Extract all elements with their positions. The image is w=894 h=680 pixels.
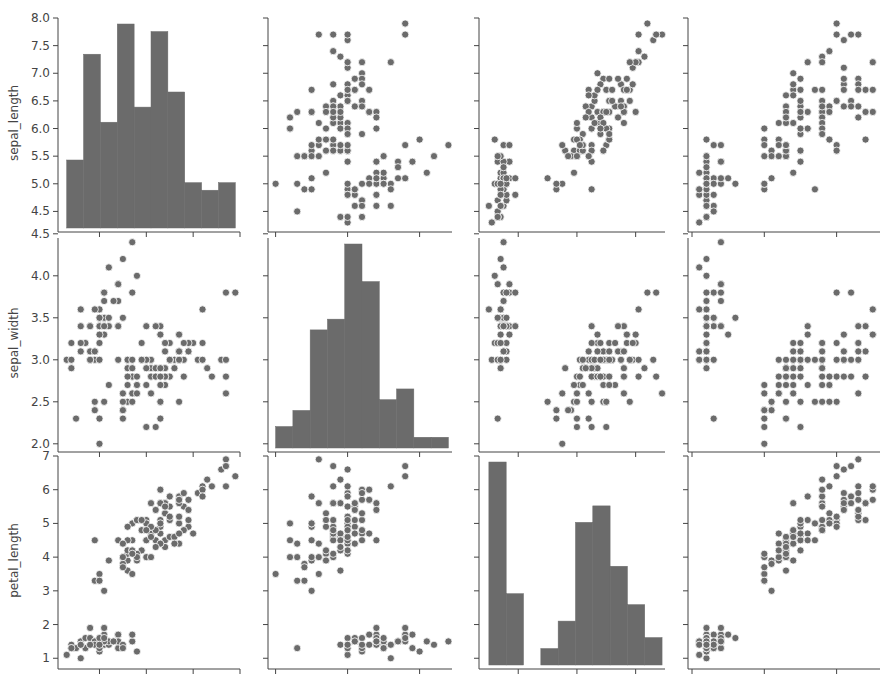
- scatter-point: [597, 125, 604, 132]
- scatter-point: [394, 164, 401, 171]
- scatter-point: [373, 125, 380, 132]
- y-tick-label: 4: [42, 550, 50, 564]
- scatter-point: [337, 108, 344, 115]
- scatter-point: [626, 59, 633, 66]
- panel-sepal_width-vs-petal_length: [474, 234, 666, 457]
- scatter-point: [366, 641, 373, 648]
- scatter-point: [337, 537, 344, 544]
- scatter-point: [344, 86, 351, 93]
- scatter-point: [129, 365, 136, 372]
- scatter-point: [570, 381, 577, 388]
- scatter-point: [423, 169, 430, 176]
- scatter-point: [171, 365, 178, 372]
- scatter-point: [819, 59, 826, 66]
- scatter-point: [782, 373, 789, 380]
- scatter-point: [91, 398, 98, 405]
- scatter-point: [797, 348, 804, 355]
- scatter-point: [166, 356, 173, 363]
- scatter-point: [790, 348, 797, 355]
- scatter-point: [322, 557, 329, 564]
- scatter-point: [497, 255, 504, 262]
- scatter-point: [819, 373, 826, 380]
- scatter-point: [703, 136, 710, 143]
- scatter-point: [351, 86, 358, 93]
- scatter-point: [862, 516, 869, 523]
- scatter-point: [500, 297, 507, 304]
- scatter-point: [626, 97, 633, 104]
- panel-sepal_length-vs-sepal_width: [263, 18, 452, 237]
- scatter-point: [138, 339, 145, 346]
- scatter-point: [171, 540, 178, 547]
- scatter-point: [775, 373, 782, 380]
- scatter-point: [409, 631, 416, 638]
- scatter-point: [330, 463, 337, 470]
- scatter-point: [222, 483, 229, 490]
- scatter-point: [373, 114, 380, 121]
- scatter-point: [110, 638, 117, 645]
- scatter-point: [761, 577, 768, 584]
- scatter-point: [703, 306, 710, 313]
- scatter-point: [138, 516, 145, 523]
- scatter-point: [129, 550, 136, 557]
- scatter-point: [294, 153, 301, 160]
- scatter-point: [833, 147, 840, 154]
- scatter-point: [351, 523, 358, 530]
- scatter-point: [344, 516, 351, 523]
- scatter-point: [855, 103, 862, 110]
- scatter-point: [761, 570, 768, 577]
- scatter-point: [512, 323, 519, 330]
- scatter-point: [703, 655, 710, 662]
- scatter-point: [315, 456, 322, 463]
- panel-sepal_width-vs-sepal_width: [263, 234, 452, 457]
- scatter-point: [797, 97, 804, 104]
- histogram-bar: [397, 389, 414, 448]
- scatter-point: [804, 323, 811, 330]
- panel-petal_length-vs-sepal_length: 1234567petal_length: [7, 449, 240, 674]
- scatter-point: [703, 180, 710, 187]
- scatter-point: [847, 356, 854, 363]
- scatter-point: [366, 631, 373, 638]
- panel-sepal_width-vs-petal_width: [683, 234, 880, 457]
- scatter-point: [138, 356, 145, 363]
- scatter-point: [344, 493, 351, 500]
- scatter-point: [351, 516, 358, 523]
- scatter-point: [157, 520, 164, 527]
- scatter-point: [294, 577, 301, 584]
- scatter-point: [855, 496, 862, 503]
- scatter-point: [394, 638, 401, 645]
- scatter-point: [790, 365, 797, 372]
- scatter-point: [703, 272, 710, 279]
- scatter-point: [497, 339, 504, 346]
- scatter-point: [503, 289, 510, 296]
- scatter-point: [96, 339, 103, 346]
- scatter-point: [337, 641, 344, 648]
- histogram-bar: [575, 522, 592, 665]
- scatter-point: [358, 537, 365, 544]
- y-tick-label: 1: [42, 651, 50, 665]
- scatter-point: [222, 463, 229, 470]
- scatter-point: [819, 486, 826, 493]
- scatter-point: [133, 381, 140, 388]
- scatter-point: [351, 103, 358, 110]
- y-tick-label: 6: [42, 483, 50, 497]
- scatter-point: [373, 158, 380, 165]
- scatter-point: [797, 373, 804, 380]
- y-tick-label: 4.5: [31, 227, 50, 241]
- scatter-point: [387, 655, 394, 662]
- scatter-point: [855, 483, 862, 490]
- scatter-point: [847, 500, 854, 507]
- scatter-point: [840, 86, 847, 93]
- scatter-point: [641, 365, 648, 372]
- scatter-point: [157, 331, 164, 338]
- scatter-point: [176, 348, 183, 355]
- scatter-point: [585, 92, 592, 99]
- scatter-point: [96, 641, 103, 648]
- scatter-point: [553, 415, 560, 422]
- scatter-point: [761, 153, 768, 160]
- scatter-point: [559, 390, 566, 397]
- scatter-point: [330, 147, 337, 154]
- scatter-point: [761, 415, 768, 422]
- scatter-point: [635, 306, 642, 313]
- scatter-point: [790, 169, 797, 176]
- y-tick-label: 6.5: [31, 94, 50, 108]
